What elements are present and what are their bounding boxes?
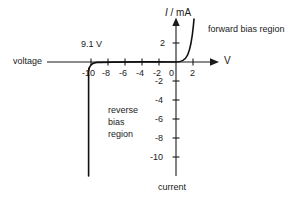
voltage-caption: voltage [13,56,42,67]
y-tick-label-minus2: -2 [155,76,163,87]
x-axis-arrow-icon [210,58,219,65]
current-caption: current [158,182,186,193]
x-tick-label-minus4: -4 [136,68,144,79]
x-tick-label-minus8: -8 [102,68,110,79]
y-axis-symbol: I [165,7,168,18]
y-axis-arrow-icon [172,18,179,27]
y-tick-label-minus10: -10 [150,152,163,163]
x-tick-label-minus6: -6 [119,68,127,79]
y-tick-label-2: 2 [160,38,165,49]
y-tick-label-minus4: -4 [155,95,163,106]
reverse-bias-region-label: reverse bias region [108,104,138,140]
y-axis-unit: / mA [171,7,192,18]
x-axis-title: V [224,55,231,66]
y-tick-label-minus6: -6 [155,114,163,125]
reverse-bias-line-3: region [108,128,138,140]
breakdown-voltage-label: 9.1 V [81,39,102,50]
x-tick-label-2: 2 [190,68,195,79]
reverse-bias-line-1: reverse [108,104,138,116]
x-tick-label-minus10: -10 [82,68,95,79]
y-tick-label-minus8: -8 [155,133,163,144]
reverse-bias-line-2: bias [108,116,138,128]
forward-bias-region-label: forward bias region [208,24,285,35]
figure-canvas: I / mA V voltage current 9.1 V forward b… [0,0,304,202]
x-tick-label-0: 0 [169,68,174,79]
y-axis-title: I / mA [165,7,191,18]
